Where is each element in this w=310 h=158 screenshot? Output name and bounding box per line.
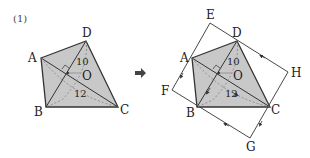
- label-C: C: [120, 103, 129, 117]
- length-BD: 10: [227, 56, 240, 67]
- label-H: H: [291, 66, 301, 80]
- label-O: O: [82, 69, 92, 83]
- parallel-mark-HG: [260, 121, 262, 125]
- label-C: C: [271, 103, 280, 117]
- problem-label: (1): [13, 13, 27, 24]
- transform-arrow: [135, 68, 146, 78]
- right-arrow-icon: [135, 68, 146, 78]
- length-AC: 12: [225, 88, 238, 99]
- length-AC: 12: [74, 88, 87, 99]
- right-figure: E D A H F B C G O 10 12: [161, 8, 301, 154]
- diagram-canvas: (1) A D B C O 10 12: [0, 0, 310, 158]
- label-B: B: [186, 106, 195, 120]
- label-A: A: [27, 51, 37, 65]
- label-E: E: [206, 8, 215, 22]
- left-figure: A D B C O 10 12: [27, 26, 129, 119]
- label-G: G: [246, 140, 256, 154]
- label-F: F: [161, 84, 169, 98]
- label-O: O: [233, 69, 243, 83]
- label-A: A: [179, 51, 189, 65]
- label-D: D: [82, 26, 92, 40]
- label-B: B: [34, 105, 43, 119]
- label-D: D: [232, 26, 242, 40]
- length-BD: 10: [76, 56, 89, 67]
